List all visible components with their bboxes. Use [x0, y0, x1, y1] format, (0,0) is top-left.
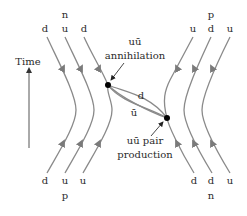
quark-line-right-1-lower	[167, 118, 194, 173]
top-left-quark-3: d	[81, 23, 88, 34]
top-right-quark-1: u	[190, 23, 197, 34]
pair-production-vertex	[164, 115, 170, 121]
exchange-antiquark-label: ū	[131, 107, 138, 118]
bottom-right-quark-1: d	[191, 175, 198, 186]
left-quark-lines	[47, 37, 112, 173]
pair-production-pointer-icon	[151, 122, 163, 136]
pair-production-label-line2: production	[117, 149, 173, 160]
quark-line-right-2-upper	[184, 37, 211, 110]
quark-line-left-3-lower	[83, 110, 112, 173]
bottom-right-particle: n	[208, 190, 215, 201]
annihilation-label-line1: uū	[129, 36, 142, 47]
pair-production-label-line1: uū pair	[127, 135, 164, 146]
top-right-particle: p	[208, 9, 214, 20]
bottom-left-quark-2: u	[62, 175, 69, 186]
time-label: Time	[15, 56, 40, 67]
annihilation-label-line2: annihilation	[105, 50, 166, 61]
annihilation-pointer-icon	[111, 63, 124, 80]
quark-line-left-3-upper	[84, 37, 112, 110]
exchange-quark-label: d	[138, 90, 145, 101]
exchange-lines: d ū	[108, 85, 167, 118]
bottom-right-quark-3: u	[227, 175, 234, 186]
bottom-left-quark-1: d	[42, 175, 49, 186]
top-left-particle: n	[62, 9, 69, 20]
time-axis: Time	[15, 56, 40, 148]
top-right-quark-3: u	[227, 23, 234, 34]
top-right-quark-2: d	[208, 23, 215, 34]
bottom-right-quark-2: d	[208, 175, 215, 186]
top-left-quark-2: u	[62, 23, 69, 34]
top-left-quark-1: d	[42, 23, 49, 34]
annihilation-vertex	[105, 82, 111, 88]
quark-line-left-2-lower	[65, 110, 94, 173]
bottom-left-quark-3: u	[80, 175, 87, 186]
quark-line-left-1-lower	[47, 110, 76, 173]
feynman-diagram: Time d	[0, 0, 247, 216]
quark-line-right-1-upper	[164, 37, 193, 118]
bottom-left-particle: p	[62, 190, 68, 201]
right-quark-lines	[164, 37, 230, 173]
quark-line-left-1-upper	[47, 37, 76, 110]
